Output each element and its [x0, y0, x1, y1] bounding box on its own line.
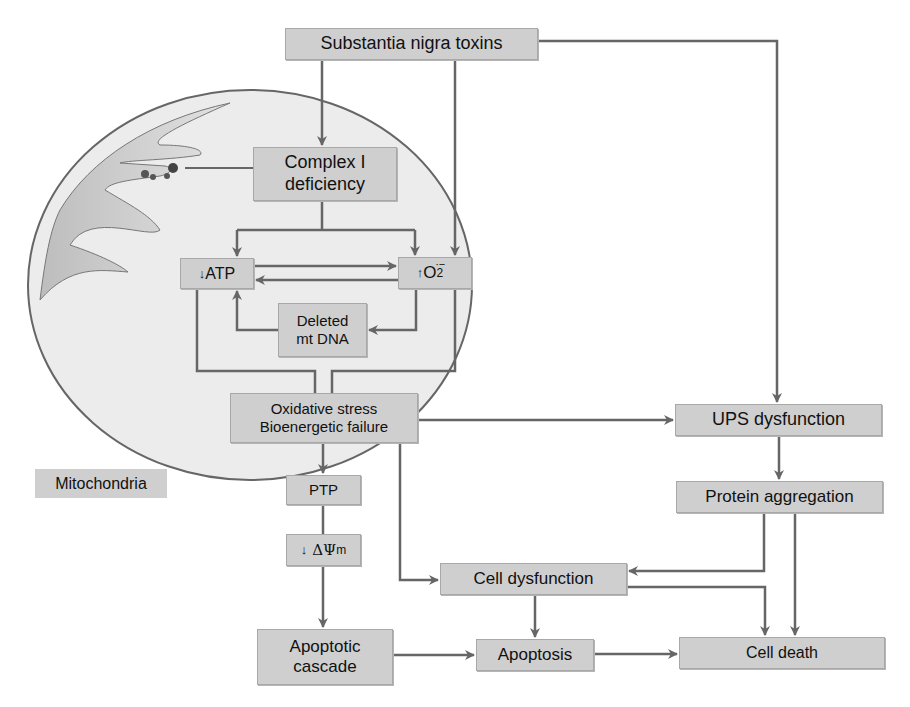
- node-deleted-mt-dna: Deleted mt DNA: [278, 303, 367, 357]
- node-label: Apoptosis: [498, 645, 573, 665]
- label-text: Mitochondria: [55, 474, 147, 493]
- node-apoptosis: Apoptosis: [476, 639, 594, 671]
- node-superscript: ·−: [435, 258, 445, 271]
- node-label-line1: Oxidative stress: [271, 400, 378, 418]
- node-label-line1: Complex I: [284, 152, 365, 174]
- node-substantia-nigra-toxins: Substantia nigra toxins: [285, 28, 538, 60]
- down-arrow-icon: ↓: [301, 542, 308, 558]
- node-label: Cell dysfunction: [473, 569, 593, 589]
- node-atp-decrease: ↓ ATP: [180, 258, 254, 289]
- container-label-mitochondria: Mitochondria: [35, 469, 167, 498]
- node-label-line2: cascade: [293, 657, 356, 677]
- diagram-wires: [0, 0, 910, 707]
- node-label-line1: Apoptotic: [290, 637, 361, 657]
- node-cell-dysfunction: Cell dysfunction: [440, 563, 627, 595]
- node-label: Cell death: [746, 643, 818, 662]
- node-label: Substantia nigra toxins: [320, 33, 502, 55]
- node-ptp: PTP: [286, 475, 361, 505]
- node-label: UPS dysfunction: [712, 409, 845, 431]
- node-ups-dysfunction: UPS dysfunction: [675, 404, 882, 436]
- node-apoptotic-cascade: Apoptotic cascade: [257, 629, 393, 685]
- node-label: Protein aggregation: [705, 487, 853, 507]
- node-superoxide-increase: ↑ O 2 ·−: [398, 257, 472, 289]
- node-label-line2: mt DNA: [296, 330, 349, 348]
- node-label: ATP: [205, 264, 235, 283]
- node-subscript: m: [336, 543, 346, 557]
- node-label: PTP: [309, 481, 338, 499]
- node-label: ΔΨ: [312, 541, 336, 559]
- node-label-line2: deficiency: [285, 174, 365, 196]
- node-oxidative-stress: Oxidative stress Bioenergetic failure: [230, 393, 418, 443]
- node-cell-death: Cell death: [679, 637, 885, 669]
- node-protein-aggregation: Protein aggregation: [676, 481, 883, 513]
- node-membrane-potential-decrease: ↓ ΔΨ m: [286, 534, 361, 566]
- node-label-line2: Bioenergetic failure: [260, 418, 388, 436]
- node-complex-i-deficiency: Complex I deficiency: [253, 147, 397, 201]
- node-label-line1: Deleted: [297, 312, 349, 330]
